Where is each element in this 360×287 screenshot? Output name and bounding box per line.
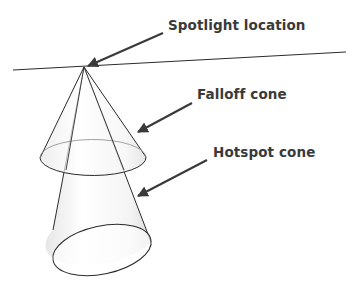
spotlight-location-arrow bbox=[88, 33, 163, 66]
hotspot-cone-label: Hotspot cone bbox=[213, 144, 315, 160]
falloff-cone bbox=[40, 67, 146, 175]
falloff-cone-label: Falloff cone bbox=[197, 86, 287, 102]
spotlight-location-label: Spotlight location bbox=[168, 17, 306, 33]
horizon-line bbox=[13, 52, 346, 70]
falloff-cone-arrow bbox=[138, 103, 192, 132]
hotspot-cone-arrow bbox=[138, 160, 207, 196]
